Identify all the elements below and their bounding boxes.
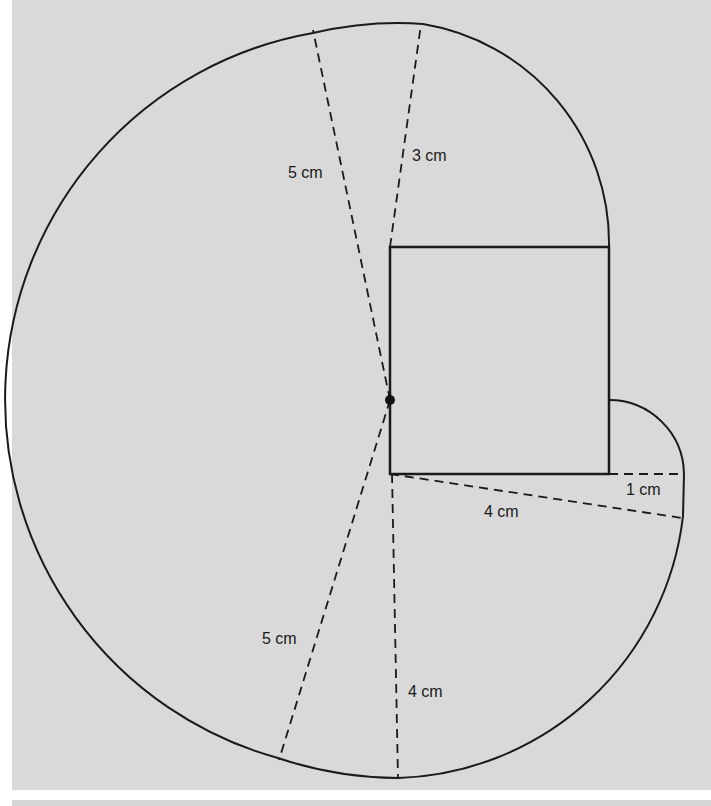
square (390, 247, 609, 474)
label-3cm-top: 3 cm (412, 147, 447, 164)
label-5cm-bottom: 5 cm (262, 630, 297, 647)
radius-4cm-bottom (392, 474, 398, 778)
label-4cm-bottom: 4 cm (408, 683, 443, 700)
locus-diagram: 5 cm 3 cm 1 cm 4 cm 5 cm 4 cm (0, 0, 711, 806)
radius-5cm-top (313, 30, 390, 400)
label-1cm: 1 cm (626, 481, 661, 498)
radius-3cm-top (390, 24, 421, 247)
label-4cm-right: 4 cm (484, 503, 519, 520)
outer-boundary (5, 23, 684, 778)
radius-5cm-bottom (279, 400, 390, 760)
label-5cm-top: 5 cm (288, 164, 323, 181)
center-point (385, 395, 395, 405)
